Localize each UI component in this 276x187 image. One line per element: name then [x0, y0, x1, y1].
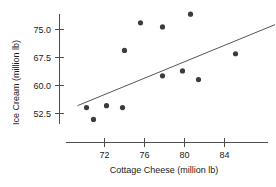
- x-tick-label-72: 72: [99, 150, 109, 160]
- y-tick-label-52-5: 52.5: [33, 109, 51, 119]
- y-tick-label-75: 75.0: [33, 25, 51, 35]
- data-point: [138, 20, 143, 25]
- data-point: [180, 68, 185, 73]
- data-point: [120, 105, 125, 110]
- x-tick-label-84: 84: [219, 150, 229, 160]
- data-point: [160, 24, 165, 29]
- data-point-group: [84, 12, 238, 122]
- data-point: [160, 73, 165, 78]
- y-tick-label-60: 60.0: [33, 81, 51, 91]
- x-tick-label-80: 80: [179, 150, 189, 160]
- x-tick-label-76: 76: [139, 150, 149, 160]
- trend-line: [78, 23, 276, 106]
- plot-canvas: 75.0 67.5 60.0 52.5 Ice Cream (million l…: [0, 0, 275, 187]
- x-axis-title: Cottage Cheese (million lb): [110, 165, 219, 175]
- data-point: [122, 48, 127, 53]
- data-point: [91, 117, 96, 122]
- data-point: [196, 77, 201, 82]
- data-point: [104, 103, 109, 108]
- y-axis-title: Ice Cream (million lb): [11, 40, 21, 125]
- data-point: [233, 51, 238, 56]
- y-tick-label-67-5: 67.5: [33, 53, 51, 63]
- data-point: [188, 12, 193, 17]
- scatter-plot-figure: 75.0 67.5 60.0 52.5 Ice Cream (million l…: [0, 0, 275, 187]
- data-point: [84, 105, 89, 110]
